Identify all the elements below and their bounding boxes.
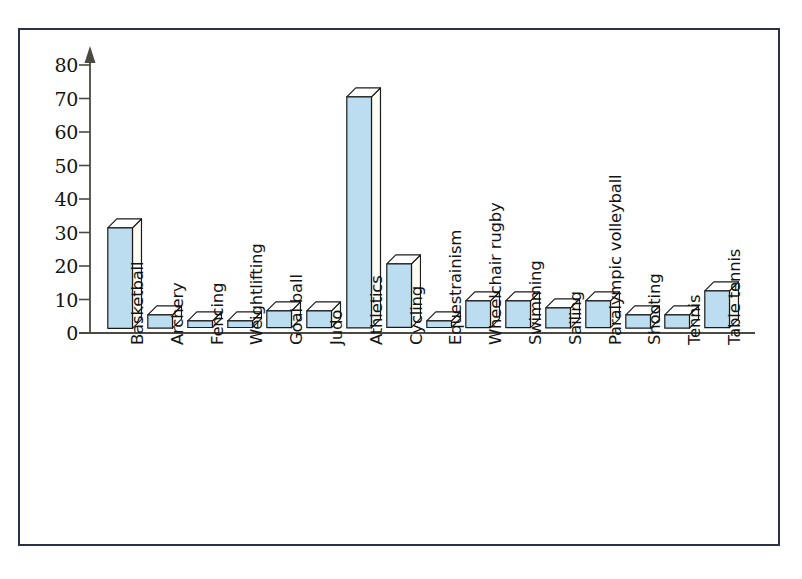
x-label-fencing: Fencing xyxy=(210,283,227,345)
x-label-judo: Judo xyxy=(329,310,346,345)
x-label-table-tennis: Table tennis xyxy=(727,249,744,345)
x-label-tennis: Tennis xyxy=(687,295,704,345)
x-label-basketball: Basketball xyxy=(130,262,147,345)
x-label-weightlifting: Weightlifting xyxy=(249,243,266,345)
x-label-archery: Archery xyxy=(170,282,187,345)
x-label-equestrainism: Equestrainism xyxy=(448,230,465,345)
x-label-goal-ball: Goal ball xyxy=(289,274,306,345)
x-label-shooting: Shooting xyxy=(647,273,664,345)
x-label-sailing: Sailing xyxy=(568,291,585,345)
bar-chart-plot-area: 01020304050607080 BasketballArcheryFenci… xyxy=(20,30,778,544)
figure-root: 01020304050607080 BasketballArcheryFenci… xyxy=(0,0,802,579)
x-label-wheelchair-rugby: Wheelchair rugby xyxy=(488,202,505,345)
x-label-cycling: Cycling xyxy=(409,286,426,345)
x-label-athletics: Athletics xyxy=(369,275,386,345)
x-label-paralympic-volleyball: Paralympic volleyball xyxy=(608,174,625,345)
chart-frame: 01020304050607080 BasketballArcheryFenci… xyxy=(18,28,780,546)
x-label-swimming: Swimming xyxy=(528,260,545,345)
